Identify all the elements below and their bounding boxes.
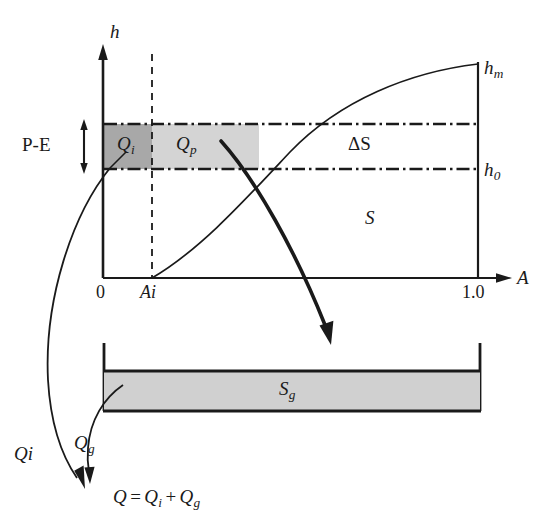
y-axis-arrowhead (98, 44, 108, 60)
storage-area-curve (152, 64, 478, 278)
h0-level-label: h0 (484, 160, 500, 182)
region-qp-subscript: p (190, 142, 197, 157)
region-qp-fill (152, 124, 259, 169)
hm-base: h (484, 57, 494, 78)
hm-level-label: hm (484, 58, 503, 80)
region-sg-label: Sg (279, 379, 295, 401)
qg-arrow-subscript: g (88, 441, 95, 456)
x-tick-ai-label: Ai (140, 283, 156, 301)
x-axis-label: A (517, 268, 529, 287)
region-qi-base: Q (117, 133, 131, 154)
h0-subscript: 0 (494, 168, 501, 183)
region-qp-label: Qp (176, 134, 197, 156)
equation-qg-subscript: g (193, 495, 200, 510)
equation-q: Q (113, 486, 127, 507)
x-tick-origin-label: 0 (96, 283, 105, 301)
qp-transfer-arrowhead (320, 321, 334, 345)
water-balance-diagram: h hm h0 A P-E Qi Qp ΔS S 0 Ai 1.0 Sg Qi … (0, 0, 553, 529)
equation-qi: Q (144, 486, 158, 507)
equation-qg: Q (180, 486, 194, 507)
qi-flow-arrow-label: Qi (14, 444, 33, 463)
h0-base: h (484, 159, 494, 180)
precip-minus-evap-label: P-E (22, 135, 51, 154)
x-axis-arrowhead (496, 273, 512, 283)
region-sg-subscript: g (289, 387, 296, 402)
hm-subscript: m (494, 66, 504, 81)
pe-arrowhead-down (80, 163, 87, 174)
region-qp-base: Q (176, 133, 190, 154)
region-s-label: S (365, 208, 375, 227)
water-balance-equation: Q=Qi+Qg (113, 487, 200, 509)
qg-flow-arrowhead (84, 467, 94, 484)
equation-equals: = (127, 486, 145, 507)
region-sg-base: S (279, 378, 289, 399)
x-tick-max-label: 1.0 (462, 283, 485, 301)
region-delta-s-label: ΔS (348, 134, 371, 153)
equation-plus: + (162, 486, 180, 507)
y-axis-label: h (110, 22, 120, 41)
region-qi-subscript: i (131, 142, 135, 157)
qg-flow-arrow-label: Qg (74, 433, 95, 455)
region-qi-label: Qi (117, 134, 135, 156)
qg-arrow-base: Q (74, 432, 88, 453)
pe-arrowhead-up (80, 119, 87, 130)
